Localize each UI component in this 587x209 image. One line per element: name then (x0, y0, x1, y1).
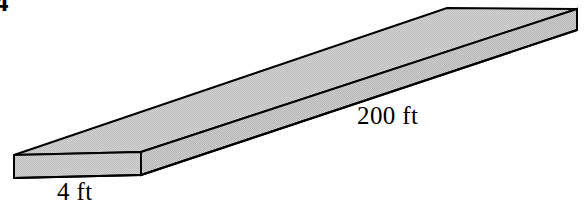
length-label: 200 ft (357, 103, 418, 128)
width-label: 4 ft (57, 179, 93, 204)
slab-top-face (14, 8, 577, 155)
figure-canvas: 4 200 ft 4 (0, 0, 587, 209)
slab-end-face (14, 152, 141, 178)
